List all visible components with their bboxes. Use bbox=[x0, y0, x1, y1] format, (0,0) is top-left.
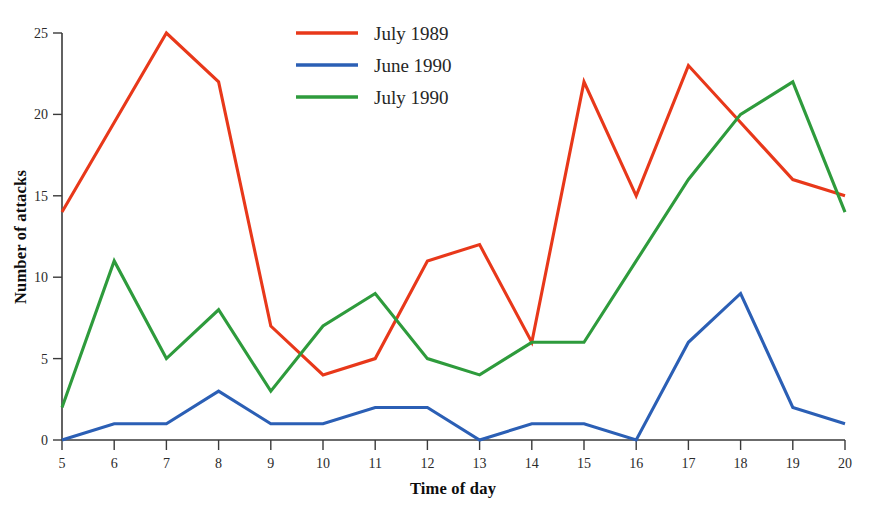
y-tick-label: 10 bbox=[34, 270, 48, 285]
chart-canvas: 0510152025 Number of attacks 56789101112… bbox=[0, 0, 871, 512]
x-tick-label: 12 bbox=[420, 456, 434, 471]
x-tick-label: 20 bbox=[838, 456, 852, 471]
line-chart: 0510152025 Number of attacks 56789101112… bbox=[0, 0, 871, 512]
y-axis: 0510152025 Number of attacks bbox=[11, 26, 62, 448]
x-tick-label: 16 bbox=[629, 456, 643, 471]
x-tick-label: 13 bbox=[473, 456, 487, 471]
series-group bbox=[62, 33, 845, 440]
x-tick-label: 9 bbox=[267, 456, 274, 471]
legend-label-july-1990: July 1990 bbox=[374, 87, 448, 108]
series-line-july-1989 bbox=[62, 33, 845, 375]
x-tick-label: 10 bbox=[316, 456, 330, 471]
y-tick-group: 0510152025 bbox=[34, 26, 62, 448]
legend-label-june-1990: June 1990 bbox=[374, 55, 452, 76]
y-tick-label: 20 bbox=[34, 107, 48, 122]
y-tick-label: 0 bbox=[41, 433, 48, 448]
series-line-july-1990 bbox=[62, 82, 845, 408]
y-tick-label: 25 bbox=[34, 26, 48, 41]
x-tick-label: 5 bbox=[59, 456, 66, 471]
y-axis-title: Number of attacks bbox=[11, 170, 30, 305]
chart-legend: July 1989June 1990July 1990 bbox=[296, 23, 452, 108]
x-tick-label: 8 bbox=[215, 456, 222, 471]
y-tick-label: 5 bbox=[41, 352, 48, 367]
x-tick-label: 15 bbox=[577, 456, 591, 471]
x-tick-label: 14 bbox=[525, 456, 539, 471]
x-tick-label: 18 bbox=[734, 456, 748, 471]
legend-label-july-1989: July 1989 bbox=[374, 23, 448, 44]
x-axis: 567891011121314151617181920 Time of day bbox=[59, 440, 853, 498]
x-tick-label: 11 bbox=[368, 456, 381, 471]
x-axis-title: Time of day bbox=[410, 479, 497, 498]
x-tick-label: 17 bbox=[681, 456, 695, 471]
x-tick-label: 6 bbox=[111, 456, 118, 471]
x-tick-group: 567891011121314151617181920 bbox=[59, 440, 853, 471]
x-tick-label: 7 bbox=[163, 456, 170, 471]
x-tick-label: 19 bbox=[786, 456, 800, 471]
y-tick-label: 15 bbox=[34, 189, 48, 204]
